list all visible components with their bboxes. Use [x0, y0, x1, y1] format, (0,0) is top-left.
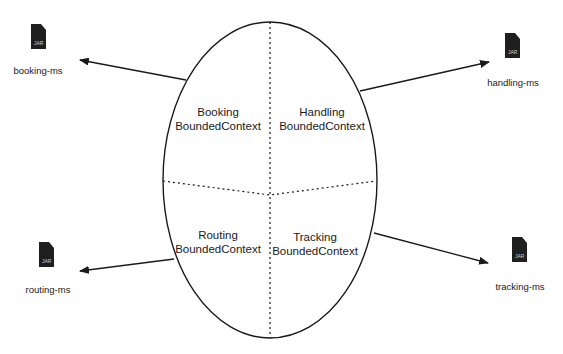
- domain-ellipse: [163, 22, 377, 338]
- routing-ms-label: routing-ms: [26, 284, 71, 295]
- handling-ms-label: handling-ms: [487, 77, 539, 88]
- handling-context-suffix: BoundedContext: [279, 120, 365, 132]
- handling-context: Handling BoundedContext: [279, 106, 365, 132]
- jar-icon-text: JAR: [508, 49, 518, 55]
- routing-context-name: Routing: [198, 229, 238, 241]
- tracking-ms-label: tracking-ms: [495, 281, 544, 292]
- handling-context-name: Handling: [299, 106, 344, 118]
- arrow-to-routing-ms: [80, 259, 174, 271]
- booking-context-name: Booking: [197, 106, 239, 118]
- arrow-to-tracking-ms: [374, 233, 488, 263]
- booking-context: Booking BoundedContext: [175, 106, 261, 132]
- booking-ms-label: booking-ms: [13, 65, 62, 76]
- arrow-to-booking-ms: [80, 60, 186, 80]
- booking-ms-node[interactable]: JAR: [31, 24, 46, 49]
- routing-context: Routing BoundedContext: [175, 229, 261, 255]
- routing-ms-node[interactable]: JAR: [39, 242, 54, 267]
- jar-icon-text: JAR: [515, 253, 525, 259]
- tracking-ms-node[interactable]: JAR: [512, 237, 527, 262]
- arrow-to-handling-ms: [360, 62, 489, 91]
- jar-icon-text: JAR: [34, 40, 44, 46]
- tracking-context: Tracking BoundedContext: [272, 231, 358, 257]
- tracking-context-suffix: BoundedContext: [272, 245, 358, 257]
- bounded-context-diagram: Booking BoundedContext Handling BoundedC…: [0, 0, 563, 354]
- booking-context-suffix: BoundedContext: [175, 120, 261, 132]
- routing-context-suffix: BoundedContext: [175, 243, 261, 255]
- tracking-context-name: Tracking: [293, 231, 337, 243]
- jar-icon-text: JAR: [42, 258, 52, 264]
- handling-ms-node[interactable]: JAR: [505, 33, 520, 58]
